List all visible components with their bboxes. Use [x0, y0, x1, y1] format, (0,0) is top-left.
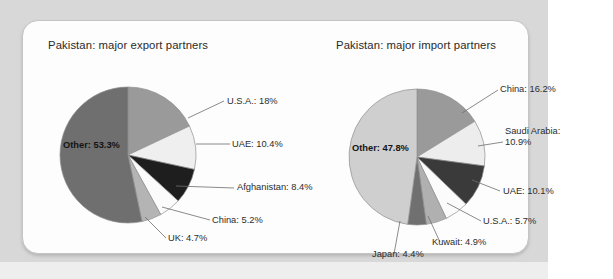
leader-import-china	[462, 90, 498, 113]
slice-label-export-uk: UK: 4.7%	[168, 233, 207, 244]
slice-label-import-other: Other: 47.8%	[352, 143, 409, 153]
slice-label-import-china: China: 16.2%	[500, 84, 556, 95]
slice-label-import-japan: Japan: 4.4%	[372, 249, 424, 260]
slice-label-export-other: Other: 53.3%	[63, 140, 120, 150]
slice-label-export-china: China: 5.2%	[212, 215, 263, 226]
slice-label-export-afghanistan: Afghanistan: 8.4%	[237, 182, 312, 193]
slice-label-export-usa: U.S.A.: 18%	[227, 96, 278, 107]
slice-label-import-saudi: Saudi Arabia: 10.9%	[505, 126, 577, 148]
slice-label-import-kuwait: Kuwait: 4.9%	[432, 237, 486, 248]
pie-slice-other	[349, 89, 417, 224]
slice-label-import-usa: U.S.A.: 5.7%	[483, 216, 536, 227]
slice-label-export-uae: UAE: 10.4%	[232, 139, 283, 150]
slice-label-import-uae: UAE: 10.1%	[503, 186, 554, 197]
